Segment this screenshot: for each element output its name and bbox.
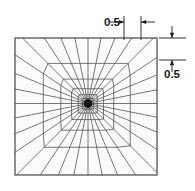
radial-mesh <box>15 38 157 175</box>
mesh-figure: 0.5 0.5 <box>0 0 195 191</box>
top-dimension-label: 0.5 <box>104 16 121 28</box>
right-dimension-label: 0.5 <box>164 68 181 80</box>
